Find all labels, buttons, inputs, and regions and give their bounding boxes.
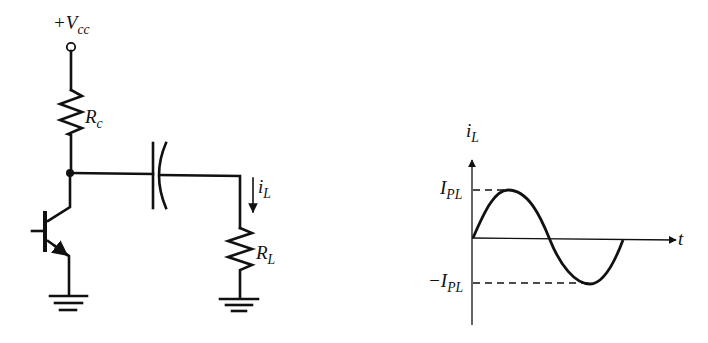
collector-resistor-label: Rc [85,106,103,132]
trough-label: −IPL [428,270,463,296]
diagram-canvas [0,0,708,343]
peak-label: IPL [440,177,462,203]
wire-cap-load [160,175,240,228]
ground-load-icon [220,299,258,311]
supply-label: +Vcc [53,12,90,38]
load-resistor-icon [228,228,252,298]
wire-collector-cap [70,173,153,174]
npn-transistor-icon [32,173,70,295]
load-resistor-label: RL [256,242,275,268]
x-axis-label: t [678,228,683,250]
ground-emitter-icon [50,296,87,310]
sine-wave [473,190,623,284]
load-current-label: iL [258,176,271,202]
x-axis [472,238,676,240]
collector-resistor-icon [60,90,82,173]
y-axis-label: iL [466,120,479,146]
